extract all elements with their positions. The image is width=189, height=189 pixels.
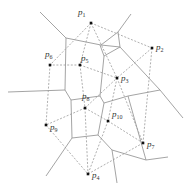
site-point-p5 [79, 64, 82, 67]
site-labels: p1p2p3p4p5p6p7p8p9p10 [44, 7, 164, 181]
delaunay-edge [143, 48, 152, 143]
site-label-p7: p7 [146, 139, 155, 150]
site-label-p1: p1 [77, 7, 86, 18]
delaunay-edges [46, 23, 152, 174]
site-label-p9: p9 [49, 122, 58, 133]
voronoi-edge [72, 135, 98, 138]
site-point-p9 [45, 124, 48, 127]
voronoi-edge [112, 150, 146, 160]
voronoi-diagram: p1p2p3p4p5p6p7p8p9p10 [0, 0, 189, 189]
voronoi-edge [98, 103, 104, 135]
voronoi-edges [8, 12, 183, 183]
voronoi-edge [120, 47, 160, 90]
delaunay-edge [80, 65, 85, 108]
site-point-p10 [107, 120, 110, 123]
delaunay-edge [85, 108, 108, 121]
delaunay-edge [117, 78, 143, 143]
voronoi-edge [104, 96, 128, 103]
voronoi-edge [65, 38, 66, 90]
delaunay-edge [85, 108, 88, 174]
voronoi-edge [112, 150, 117, 183]
delaunay-edge [88, 121, 108, 174]
site-label-p4: p4 [91, 170, 100, 181]
voronoi-edge [65, 90, 71, 100]
voronoi-edge [160, 90, 183, 118]
voronoi-edge [146, 157, 168, 160]
voronoi-edge [128, 90, 160, 96]
voronoi-edge [101, 32, 118, 45]
site-point-p2 [151, 47, 154, 50]
voronoi-edge [118, 14, 131, 32]
site-label-p10: p10 [111, 109, 123, 120]
voronoi-edge [66, 38, 101, 45]
site-point-p1 [90, 22, 93, 25]
voronoi-edge [71, 100, 72, 138]
voronoi-edge [40, 12, 66, 38]
voronoi-edge [8, 90, 65, 92]
voronoi-edge [128, 96, 146, 160]
voronoi-edge [100, 96, 104, 103]
site-point-p7 [142, 142, 145, 145]
site-point-p4 [87, 173, 90, 176]
site-point-p3 [116, 77, 119, 80]
site-label-p3: p3 [120, 73, 129, 84]
delaunay-edge [46, 65, 50, 125]
site-label-p8: p8 [81, 91, 90, 102]
site-label-p2: p2 [155, 42, 164, 53]
voronoi-edge [100, 56, 104, 96]
site-label-p6: p6 [44, 49, 53, 60]
site-label-p5: p5 [80, 53, 89, 64]
voronoi-edge [101, 45, 120, 47]
site-point-p8 [84, 107, 87, 110]
site-point-p6 [49, 64, 52, 67]
voronoi-edge [46, 138, 72, 176]
voronoi-edge [104, 47, 120, 56]
